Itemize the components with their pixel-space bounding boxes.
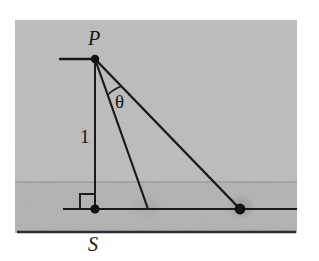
- point-p-dot: [91, 55, 99, 63]
- figure-canvas: [0, 0, 319, 261]
- point-s-dot: [90, 204, 99, 213]
- geometry-figure: P θ 1 S: [0, 0, 319, 261]
- point-p-label: P: [88, 28, 100, 48]
- panel-background-upper: [15, 20, 297, 182]
- far-ray-endpoint-dot: [235, 204, 246, 215]
- height-length-label: 1: [80, 127, 90, 146]
- angle-theta-label: θ: [115, 92, 124, 111]
- point-s-label: S: [88, 234, 98, 254]
